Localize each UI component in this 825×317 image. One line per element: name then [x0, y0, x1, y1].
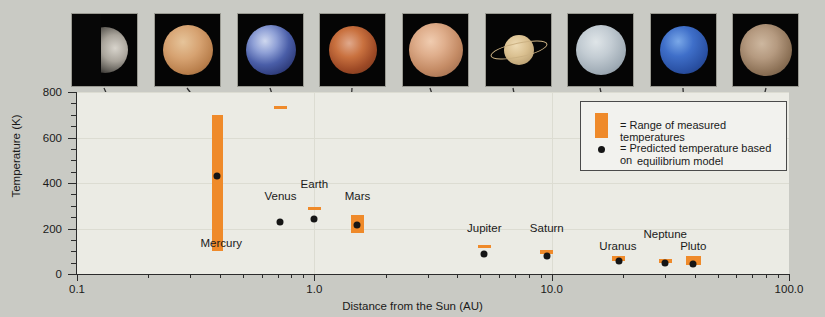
mars-thumbnail: [320, 14, 385, 86]
y-axis-minor-tick: [71, 103, 76, 104]
planet-disc: [246, 25, 296, 75]
y-axis-minor-tick: [71, 149, 76, 150]
gridline-vertical: [552, 92, 553, 274]
legend-predicted-label-line2: equilibrium model: [637, 155, 723, 167]
y-axis-minor-tick: [71, 240, 76, 241]
planet-label-earth: Earth: [301, 178, 329, 190]
x-axis-tick-label: 1.0: [306, 283, 322, 295]
predicted-temperature-dot: [354, 222, 361, 229]
y-axis-major-tick: [68, 229, 76, 230]
planet-label-neptune: Neptune: [643, 228, 686, 240]
x-axis-minor-tick: [262, 274, 263, 278]
y-axis-minor-tick: [71, 217, 76, 218]
predicted-temperature-dot: [543, 252, 550, 259]
earth-thumbnail: [238, 14, 303, 86]
x-axis-minor-tick: [778, 274, 779, 278]
planet-label-saturn: Saturn: [530, 222, 564, 234]
planet-disc: [329, 26, 377, 74]
x-axis-minor-tick: [541, 274, 542, 278]
x-axis-minor-tick: [718, 274, 719, 278]
venus-thumbnail: [155, 14, 220, 86]
uranus-thumbnail: [568, 14, 633, 86]
x-axis-minor-tick: [752, 274, 753, 278]
x-axis-major-tick: [789, 274, 790, 281]
x-axis-minor-tick: [529, 274, 530, 278]
jupiter-thumbnail: [403, 14, 468, 86]
y-axis-title: Temperature (K): [10, 96, 22, 216]
x-axis-minor-tick: [499, 274, 500, 278]
y-axis-tick-label: 200: [28, 223, 62, 235]
x-axis-tick-label: 10.0: [540, 283, 562, 295]
predicted-temperature-dot: [690, 261, 697, 268]
y-axis-tick-labels: 0200400600800: [22, 0, 62, 317]
measured-range-bar: [478, 245, 491, 249]
planet-label-jupiter: Jupiter: [467, 222, 502, 234]
y-axis-tick-label: 800: [28, 86, 62, 98]
x-axis-minor-tick: [515, 274, 516, 278]
predicted-temperature-dot: [481, 250, 488, 257]
measured-range-bar: [212, 115, 223, 252]
planet-label-pluto: Pluto: [680, 240, 706, 252]
x-axis-minor-tick: [190, 274, 191, 278]
measured-range-bar: [274, 106, 287, 110]
x-axis-minor-tick: [386, 274, 387, 278]
planet-label-uranus: Uranus: [599, 240, 636, 252]
x-axis-major-tick: [552, 274, 553, 281]
x-axis-minor-tick: [428, 274, 429, 278]
predicted-temperature-dot: [214, 173, 221, 180]
saturn-thumbnail: [486, 14, 551, 86]
legend-range-label: = Range of measured temperatures: [620, 119, 786, 143]
planet-disc: [163, 25, 213, 75]
planet-thumbnail-strip: [0, 0, 825, 94]
y-axis-tick-label: 400: [28, 177, 62, 189]
x-axis-minor-tick: [220, 274, 221, 278]
x-axis-minor-tick: [148, 274, 149, 278]
measured-range-bar: [308, 207, 321, 211]
legend-box: = Range of measured temperatures = Predi…: [580, 101, 787, 171]
x-axis-line: [76, 274, 790, 275]
planet-disc: [740, 24, 792, 76]
predicted-temperature-dot: [615, 257, 622, 264]
y-axis-minor-tick: [71, 263, 76, 264]
legend-predicted-dot-icon: [598, 146, 605, 153]
planet-label-mars: Mars: [345, 190, 371, 202]
gridline-horizontal: [77, 183, 789, 184]
predicted-temperature-dot: [277, 218, 284, 225]
x-axis-minor-tick: [278, 274, 279, 278]
y-axis-line: [76, 92, 77, 275]
y-axis-minor-tick: [71, 206, 76, 207]
x-axis-major-tick: [77, 274, 78, 281]
gridline-horizontal: [77, 92, 789, 93]
planet-disc: [409, 23, 463, 77]
x-axis-minor-tick: [291, 274, 292, 278]
x-axis-minor-tick: [457, 274, 458, 278]
planet-disc: [576, 25, 626, 75]
y-axis-major-tick: [68, 274, 76, 275]
y-axis-minor-tick: [71, 160, 76, 161]
mercury-thumbnail: [72, 14, 137, 86]
legend-range-swatch: [595, 113, 608, 138]
y-axis-minor-tick: [71, 126, 76, 127]
planet-label-venus: Venus: [264, 190, 296, 202]
x-axis-title: Distance from the Sun (AU): [0, 300, 825, 312]
predicted-temperature-dot: [662, 259, 669, 266]
y-axis-tick-label: 600: [28, 132, 62, 144]
figure-root: QUESTIONS THE BIG PICTURE 0200400600800 …: [0, 0, 825, 317]
planet-disc: [660, 26, 708, 74]
x-axis-minor-tick: [695, 274, 696, 278]
neptune-thumbnail: [651, 14, 716, 86]
x-axis-minor-tick: [303, 274, 304, 278]
y-axis-minor-tick: [71, 251, 76, 252]
planet-label-mercury: Mercury: [201, 237, 243, 249]
y-axis-major-tick: [68, 183, 76, 184]
x-axis-minor-tick: [623, 274, 624, 278]
x-axis-minor-tick: [243, 274, 244, 278]
y-axis-minor-tick: [71, 194, 76, 195]
x-axis-tick-label: 0.1: [69, 283, 85, 295]
x-axis-minor-tick: [480, 274, 481, 278]
x-axis-minor-tick: [766, 274, 767, 278]
y-axis-minor-tick: [71, 115, 76, 116]
y-axis-tick-label: 0: [28, 268, 62, 280]
x-axis-tick-label: 100.0: [775, 283, 804, 295]
x-axis-minor-tick: [736, 274, 737, 278]
